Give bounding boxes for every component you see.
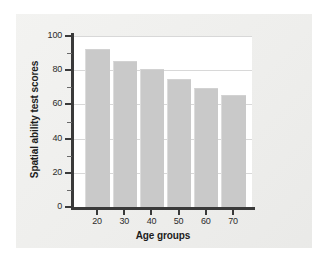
y-axis-tick-label: 100 (22, 30, 62, 40)
x-axis-tick-label: 40 (136, 216, 166, 226)
bar (85, 49, 109, 207)
y-axis-minor-tick (67, 122, 72, 123)
x-axis-line (71, 207, 255, 210)
y-axis-minor-tick (67, 156, 72, 157)
x-axis-tick-label: 50 (164, 216, 194, 226)
plot-area (74, 36, 252, 207)
gridline (74, 36, 252, 37)
y-axis-minor-tick (67, 53, 72, 54)
y-axis-tick (65, 35, 72, 37)
x-axis-tick (232, 210, 234, 215)
bar (221, 95, 245, 207)
bar (167, 79, 191, 207)
x-axis-tick-label: 70 (218, 216, 248, 226)
y-axis-minor-tick (67, 190, 72, 191)
x-axis-tick (96, 210, 98, 215)
y-axis-minor-tick (67, 87, 72, 88)
x-axis-tick-label: 20 (82, 216, 112, 226)
x-axis-tick-label: 60 (191, 216, 221, 226)
x-axis-tick (123, 210, 125, 215)
bar (194, 88, 218, 207)
y-axis-tick (65, 206, 72, 208)
x-axis-tick-label: 30 (109, 216, 139, 226)
x-axis-tick (178, 210, 180, 215)
bar (140, 69, 164, 207)
y-axis-tick (65, 172, 72, 174)
y-axis-tick-label: 0 (22, 201, 62, 211)
y-axis-tick (65, 69, 72, 71)
y-axis-tick (65, 138, 72, 140)
x-axis-title: Age groups (74, 230, 252, 241)
bar (113, 61, 137, 207)
y-axis-tick (65, 103, 72, 105)
y-axis-title: Spatial ability test scores (29, 40, 40, 200)
figure: 020406080100203040506070 Spatial ability… (0, 0, 326, 262)
x-axis-tick (205, 210, 207, 215)
x-axis-tick (150, 210, 152, 215)
